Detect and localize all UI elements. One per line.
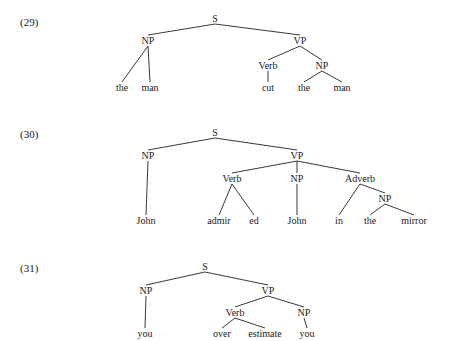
syntax-tree-figure: (29)SNPVPthemanVerbNPcuttheman(30)SNPVPJ… — [0, 0, 449, 341]
tree-node-you2: you — [300, 328, 315, 339]
tree-node-np: NP — [142, 35, 155, 46]
tree-edge — [322, 71, 342, 82]
tree-edge — [297, 161, 360, 173]
tree-node-mirror: mirror — [401, 215, 427, 226]
tree-edge — [339, 184, 360, 215]
tree-node-the1: the — [116, 82, 129, 93]
tree-node-vp: VP — [294, 35, 307, 46]
example-tree-30: (30)SNPVPJohnVerbNPAdverbadmiredJohninNP… — [20, 127, 427, 226]
example-number: (29) — [20, 16, 39, 29]
tree-edge — [222, 318, 235, 328]
tree-node-adverb: Adverb — [345, 173, 375, 184]
tree-node-man1: man — [141, 82, 158, 93]
tree-edge — [146, 161, 148, 215]
tree-edge — [232, 161, 297, 173]
tree-edge — [146, 272, 205, 285]
tree-edge — [268, 46, 300, 60]
tree-edge — [215, 24, 300, 35]
tree-edge — [385, 204, 414, 215]
tree-edge — [215, 138, 297, 150]
tree-edge — [304, 318, 307, 328]
tree-node-np: NP — [140, 285, 153, 296]
tree-edge — [205, 272, 268, 285]
tree-edge — [300, 46, 322, 60]
tree-node-cut: cut — [262, 82, 274, 93]
tree-node-john1: John — [137, 215, 156, 226]
tree-node-np2: NP — [298, 307, 311, 318]
tree-node-admir: admir — [207, 215, 231, 226]
tree-node-np2: NP — [291, 173, 304, 184]
tree-node-in: in — [335, 215, 343, 226]
tree-edge — [304, 71, 322, 82]
tree-node-estimate: estimate — [248, 328, 282, 339]
tree-node-vp: VP — [262, 285, 275, 296]
tree-node-you1: you — [138, 328, 153, 339]
tree-edge — [148, 24, 215, 35]
tree-node-s: S — [202, 261, 208, 272]
tree-node-s: S — [212, 13, 218, 24]
tree-edge — [360, 184, 385, 193]
tree-edge — [219, 184, 232, 215]
example-number: (31) — [20, 262, 39, 275]
tree-edge — [235, 296, 268, 307]
tree-node-verb: Verb — [223, 173, 242, 184]
tree-node-np2: NP — [316, 60, 329, 71]
tree-edge — [232, 184, 254, 215]
tree-edge — [145, 296, 146, 328]
tree-edge — [370, 204, 385, 215]
tree-edge — [235, 318, 265, 328]
tree-node-s: S — [212, 127, 218, 138]
tree-node-man2: man — [333, 82, 350, 93]
tree-node-verb: Verb — [259, 60, 278, 71]
example-tree-29: (29)SNPVPthemanVerbNPcuttheman — [20, 13, 351, 93]
tree-node-np3: NP — [379, 193, 392, 204]
tree-edge — [268, 296, 304, 307]
example-tree-31: (31)SNPVPyouVerbNPoverestimateyou — [20, 261, 315, 339]
tree-edge — [148, 138, 215, 150]
tree-node-verb: Verb — [226, 307, 245, 318]
tree-node-ed: ed — [249, 215, 258, 226]
tree-edge — [148, 46, 150, 82]
tree-node-the: the — [364, 215, 377, 226]
tree-node-the2: the — [298, 82, 311, 93]
tree-node-np: NP — [142, 150, 155, 161]
tree-node-over: over — [213, 328, 231, 339]
tree-node-vp: VP — [291, 150, 304, 161]
tree-edge — [122, 46, 148, 82]
tree-node-john2: John — [288, 215, 307, 226]
example-number: (30) — [20, 128, 39, 141]
